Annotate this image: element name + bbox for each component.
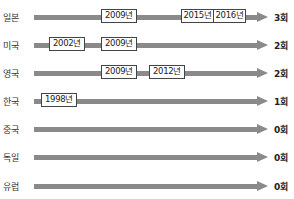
year-box: 2015년 — [181, 9, 214, 23]
timeline-row-korea: 한국 1998년 1회 — [0, 92, 294, 112]
year-box: 2012년 — [149, 65, 185, 79]
year-box: 2009년 — [101, 9, 137, 23]
timeline-row-germany: 독일 0회 — [0, 148, 294, 168]
timeline-row-usa: 미국 2002년 2009년 2회 — [0, 36, 294, 56]
country-label: 유럽 — [3, 180, 18, 193]
timeline-row-china: 중국 0회 — [0, 120, 294, 140]
timeline-row-japan: 일본 2009년 2015년 2016년 3회 — [0, 8, 294, 28]
timeline-bar — [34, 71, 258, 76]
country-label: 중국 — [3, 123, 18, 136]
country-label: 한국 — [3, 95, 18, 108]
country-label: 일본 — [3, 11, 18, 24]
arrow-right-icon — [257, 68, 268, 78]
year-box: 2009년 — [101, 37, 137, 51]
country-label: 영국 — [3, 67, 18, 80]
timeline-bar — [34, 127, 258, 132]
timeline-row-europe: 유럽 0회 — [0, 177, 294, 197]
timeline-bar — [34, 184, 258, 189]
count-label: 3회 — [274, 11, 287, 24]
year-box: 2002년 — [49, 37, 85, 51]
country-label: 미국 — [3, 39, 18, 52]
count-label: 2회 — [274, 67, 287, 80]
arrow-right-icon — [257, 152, 268, 162]
year-box: 1998년 — [41, 93, 77, 107]
arrow-right-icon — [257, 181, 268, 191]
arrow-right-icon — [257, 96, 268, 106]
year-box: 2009년 — [101, 65, 137, 79]
arrow-right-icon — [257, 40, 268, 50]
timeline-row-uk: 영국 2009년 2012년 2회 — [0, 64, 294, 84]
arrow-right-icon — [257, 124, 268, 134]
count-label: 0회 — [274, 180, 287, 193]
count-label: 1회 — [274, 95, 287, 108]
count-label: 0회 — [274, 151, 287, 164]
country-label: 독일 — [3, 151, 18, 164]
arrow-right-icon — [257, 12, 268, 22]
count-label: 2회 — [274, 39, 287, 52]
year-box: 2016년 — [213, 9, 246, 23]
count-label: 0회 — [274, 123, 287, 136]
timeline-bar — [34, 155, 258, 160]
